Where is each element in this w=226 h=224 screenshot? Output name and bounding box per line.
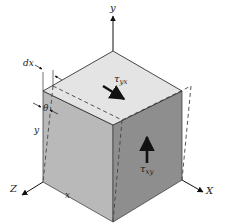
y-height-label: y bbox=[33, 125, 40, 135]
dx-arrow-left bbox=[35, 65, 42, 69]
cube-figure: y Z X dx θ y x τyx τxy bbox=[0, 0, 226, 224]
x-axis bbox=[182, 180, 203, 192]
theta-label: θ bbox=[43, 103, 49, 113]
z-axis-label: Z bbox=[9, 183, 18, 194]
shear-element-diagram: y Z X dx θ y x τyx τxy bbox=[0, 0, 226, 224]
x-axis-label: X bbox=[205, 185, 214, 196]
z-axis bbox=[22, 182, 43, 195]
dx-label: dx bbox=[23, 58, 34, 68]
theta-arrow-left bbox=[33, 103, 41, 107]
y-axis-label: y bbox=[109, 2, 116, 13]
x-width-label: x bbox=[65, 190, 70, 200]
dx-arrow-right bbox=[55, 76, 62, 80]
